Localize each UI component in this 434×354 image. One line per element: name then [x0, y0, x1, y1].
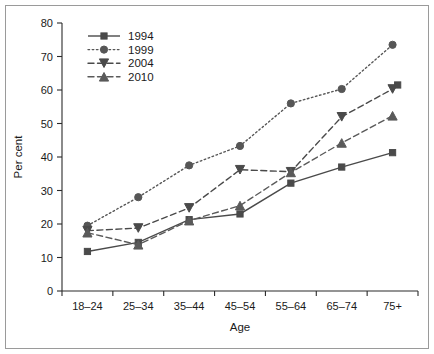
marker-square [101, 33, 107, 39]
extra-point-1994 [395, 82, 401, 88]
x-tick-label: 18–24 [72, 300, 103, 312]
x-tick-label: 75+ [383, 300, 402, 312]
x-tick-label: 25–34 [123, 300, 154, 312]
marker-circle [100, 46, 107, 53]
marker-triangle-up [235, 201, 244, 210]
line-chart: 0102030405060708018–2425–3435–4445–5455–… [0, 0, 434, 354]
x-tick-label: 45–54 [225, 300, 256, 312]
marker-circle [338, 85, 345, 92]
y-tick-label: 50 [41, 118, 53, 130]
marker-square [395, 82, 401, 88]
marker-circle [389, 41, 396, 48]
x-tick-label: 35–44 [174, 300, 205, 312]
marker-triangle-up [388, 111, 397, 120]
marker-square [288, 180, 294, 186]
y-tick-label: 0 [47, 285, 53, 297]
series-line [87, 116, 392, 245]
marker-square [389, 150, 395, 156]
marker-circle [186, 162, 193, 169]
y-tick-label: 40 [41, 151, 53, 163]
legend-label-1999: 1999 [128, 44, 154, 56]
y-tick-label: 10 [41, 252, 53, 264]
legend-label-2004: 2004 [128, 57, 154, 69]
y-tick-label: 70 [41, 51, 53, 63]
legend-label-2010: 2010 [128, 71, 154, 83]
marker-square [339, 164, 345, 170]
marker-triangle-up [337, 139, 346, 148]
x-tick-label: 65–74 [326, 300, 357, 312]
marker-circle [287, 100, 294, 107]
x-axis-title: Age [230, 321, 250, 333]
y-tick-label: 60 [41, 84, 53, 96]
legend-label-1994: 1994 [128, 30, 154, 42]
chart-legend: 1994199920042010 [88, 30, 154, 83]
chart-figure: 0102030405060708018–2425–3435–4445–5455–… [0, 0, 434, 354]
y-tick-label: 30 [41, 185, 53, 197]
y-tick-label: 80 [41, 17, 53, 29]
marker-triangle-down [185, 204, 194, 213]
x-tick-label: 55–64 [276, 300, 307, 312]
marker-square [84, 248, 90, 254]
y-tick-label: 20 [41, 218, 53, 230]
marker-square [237, 211, 243, 217]
marker-circle [135, 194, 142, 201]
marker-circle [236, 142, 243, 149]
y-axis-title: Per cent [12, 135, 24, 179]
